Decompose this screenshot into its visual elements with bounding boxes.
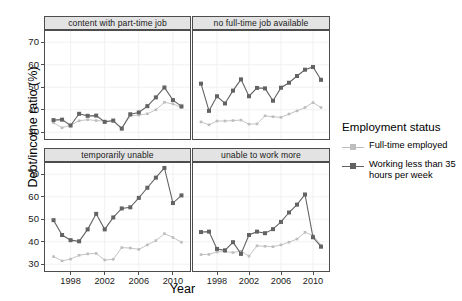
x-axis-tick-mark xyxy=(281,272,282,275)
series-point xyxy=(223,101,227,105)
series-point xyxy=(239,252,243,256)
series-line xyxy=(201,67,321,111)
series-line xyxy=(201,232,321,256)
series-point xyxy=(61,126,64,129)
series-point xyxy=(69,124,73,128)
series-point xyxy=(232,251,235,254)
x-axis-tick-label: 2002 xyxy=(88,276,122,286)
facet-strip-label: unable to work more xyxy=(221,150,301,160)
series-point xyxy=(86,118,89,121)
series-point xyxy=(247,94,251,98)
facet-panel-unable-to-work-more xyxy=(192,162,330,272)
series-point xyxy=(296,238,299,241)
x-axis-tick-mark xyxy=(249,272,250,275)
series-point xyxy=(231,240,235,244)
series-point xyxy=(111,215,115,219)
series-point xyxy=(86,253,89,256)
y-axis-tick-label: 40 xyxy=(17,236,39,247)
series-point xyxy=(60,118,64,122)
y-axis-tick-label: 70 xyxy=(17,36,39,47)
series-point xyxy=(248,255,251,258)
series-point xyxy=(129,247,132,250)
facet-strip-label: temporarily unable xyxy=(81,150,154,160)
y-axis-tick-mark xyxy=(41,264,44,265)
series-point xyxy=(154,176,158,180)
facet-plot-area xyxy=(193,163,329,271)
facet-panel-no-full-time-job-available xyxy=(192,30,330,140)
legend-item-label: Working less than 35 hours per week xyxy=(369,159,462,180)
series-point xyxy=(95,252,98,255)
legend-item-full-time-employed[interactable]: Full-time employed xyxy=(342,140,462,154)
series-point xyxy=(199,230,203,234)
series-point xyxy=(52,255,55,258)
series-point xyxy=(179,104,183,108)
series-point xyxy=(256,123,259,126)
series-point xyxy=(180,241,183,244)
series-point xyxy=(120,206,124,210)
x-axis-tick-label: 1998 xyxy=(200,276,234,286)
series-point xyxy=(78,254,81,257)
series-point xyxy=(288,241,291,244)
series-point xyxy=(320,106,323,109)
y-axis-tick-label: 70 xyxy=(17,168,39,179)
series-point xyxy=(146,113,149,116)
y-axis-tick-mark xyxy=(41,132,44,133)
series-point xyxy=(208,124,211,127)
x-axis-tick-mark xyxy=(172,272,173,275)
series-point xyxy=(279,220,283,224)
series-point xyxy=(279,86,283,90)
y-axis-tick-mark xyxy=(41,64,44,65)
series-line xyxy=(54,87,182,128)
series-point xyxy=(240,119,243,122)
series-point xyxy=(86,227,90,231)
series-point xyxy=(200,121,203,124)
legend-item-label: Full-time employed xyxy=(369,140,448,151)
y-axis-tick-label: 30 xyxy=(17,126,39,137)
y-axis-tick-mark xyxy=(41,196,44,197)
y-axis-tick-mark xyxy=(41,174,44,175)
series-point xyxy=(60,233,64,237)
x-axis-tick-label: 2010 xyxy=(156,276,190,286)
legend-title: Employment status xyxy=(342,120,462,133)
series-point xyxy=(303,68,307,72)
series-point xyxy=(255,86,259,90)
x-axis-tick-label: 2010 xyxy=(296,276,330,286)
x-axis-tick-mark xyxy=(138,272,139,275)
series-point xyxy=(154,95,158,99)
series-point xyxy=(311,235,315,239)
series-point xyxy=(272,245,275,248)
series-point xyxy=(145,104,149,108)
legend-item-working-less-than-35-hours-per-week[interactable]: Working less than 35 hours per week xyxy=(342,159,462,180)
series-line xyxy=(54,234,182,261)
series-point xyxy=(224,120,227,123)
x-axis-tick-label: 1998 xyxy=(54,276,88,286)
series-point xyxy=(319,245,323,249)
series-point xyxy=(303,193,307,197)
series-point xyxy=(78,119,81,122)
series-point xyxy=(295,203,299,207)
series-point xyxy=(232,119,235,122)
legend-key-icon xyxy=(342,160,364,173)
series-point xyxy=(247,233,251,237)
x-axis-tick-label: 2002 xyxy=(232,276,266,286)
series-point xyxy=(52,218,56,222)
series-point xyxy=(223,248,227,252)
facet-plot-area xyxy=(45,31,190,139)
series-point xyxy=(172,236,175,239)
facet-strip-label: no full-time job available xyxy=(214,18,309,28)
series-point xyxy=(179,193,183,197)
series-point xyxy=(52,118,56,122)
series-point xyxy=(248,123,251,126)
series-point xyxy=(103,227,107,231)
series-point xyxy=(280,244,283,247)
series-point xyxy=(162,166,166,170)
y-axis-tick-label: 50 xyxy=(17,81,39,92)
y-axis-tick-mark xyxy=(41,241,44,242)
series-point xyxy=(200,253,203,256)
series-point xyxy=(103,259,106,262)
y-axis-tick-mark xyxy=(41,87,44,88)
series-point xyxy=(163,101,166,104)
series-point xyxy=(239,77,243,81)
series-point xyxy=(120,246,123,249)
series-point xyxy=(231,89,235,93)
